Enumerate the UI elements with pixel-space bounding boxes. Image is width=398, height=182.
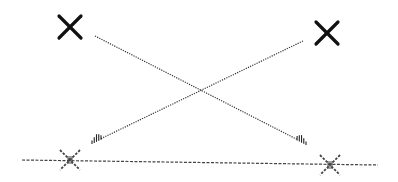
arrow-right-to-left [92, 41, 303, 144]
dotted-line [95, 36, 297, 139]
projection-diagram [0, 0, 398, 182]
diagram-canvas [0, 0, 398, 182]
top-left-x-cross-icon [59, 16, 81, 38]
dotted-line [101, 41, 303, 139]
top-right-x-cross-icon [316, 22, 338, 44]
arrowhead-icon [92, 134, 101, 144]
arrowhead-icon [297, 135, 306, 145]
